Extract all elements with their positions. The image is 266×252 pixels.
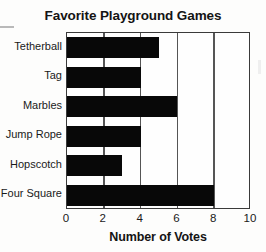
chart-title: Favorite Playground Games xyxy=(0,8,266,23)
bar-chart-screenshot: Favorite Playground Games TetherballTagM… xyxy=(0,0,266,252)
category-label: Four Square xyxy=(0,187,62,199)
x-axis-title: Number of Votes xyxy=(66,230,250,244)
category-axis-labels: TetherballTagMarblesJump RopeHopscotchFo… xyxy=(0,32,266,209)
x-tick-label: 0 xyxy=(53,212,79,224)
x-tick-label: 10 xyxy=(237,212,263,224)
x-tick-label: 8 xyxy=(200,212,226,224)
x-tick-label: 4 xyxy=(127,212,153,224)
x-tick-label: 6 xyxy=(163,212,189,224)
scan-artifact-line xyxy=(0,26,14,28)
category-label: Tag xyxy=(0,69,62,81)
category-label: Hopscotch xyxy=(0,158,62,170)
category-label: Tetherball xyxy=(0,40,62,52)
x-tick-label: 2 xyxy=(90,212,116,224)
category-label: Jump Rope xyxy=(0,128,62,140)
value-axis-tick-labels: 0246810 xyxy=(0,212,266,228)
category-label: Marbles xyxy=(0,99,62,111)
